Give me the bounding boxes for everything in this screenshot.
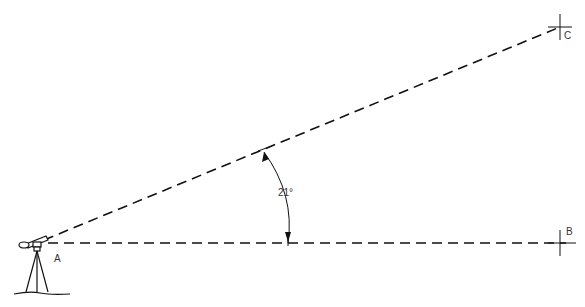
arrow-head-bottom-icon xyxy=(285,232,291,242)
sight-line-ac xyxy=(44,27,560,240)
point-a-label: A xyxy=(54,253,61,264)
point-b-label: B xyxy=(566,226,573,237)
point-c-label: C xyxy=(564,30,571,41)
diagram-canvas: C B 21° A xyxy=(0,0,585,307)
angle-label: 21° xyxy=(278,187,293,198)
surveying-instrument-icon xyxy=(14,236,70,294)
